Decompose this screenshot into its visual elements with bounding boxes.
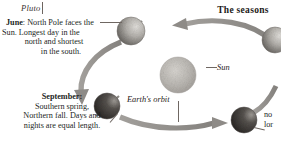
- june-caption-line-4: in the south.: [2, 47, 124, 57]
- june-caption-line-1: June: North Pole faces the: [2, 18, 124, 28]
- september-caption-line-2: Southern spring,: [0, 102, 124, 112]
- september-caption-line-1: September:: [0, 92, 124, 102]
- june-caption-line-3: north and shortest: [2, 37, 124, 47]
- june-marker: June: [6, 18, 23, 27]
- june-caption: June: North Pole faces the Sun. Longest …: [2, 18, 124, 56]
- june-caption-line-2: Sun. Longest day in the: [2, 28, 124, 38]
- orbit-arrow-right: [253, 86, 276, 113]
- june-caption-line-1-text: North Pole faces the: [25, 18, 94, 27]
- sun-leader-line: [206, 67, 217, 68]
- september-caption-line-4: nights are equal length.: [0, 121, 124, 131]
- orbit-arrow-bottom: [120, 117, 228, 129]
- sun-label: Sun: [217, 63, 230, 72]
- seasons-diagram-page: Pluto The seasons: [0, 0, 281, 147]
- orbit-leader-line: [178, 101, 179, 122]
- september-caption-line-3: Northern fall. Days and: [0, 111, 124, 121]
- sun-body: [160, 57, 196, 93]
- right-edge-clipped-line-2: lor: [264, 120, 273, 130]
- right-edge-clipped-line-1: no: [264, 110, 273, 120]
- earth-march: [262, 27, 281, 53]
- right-edge-clipped-caption: no lor: [264, 110, 273, 129]
- earths-orbit-label: Earth's orbit: [127, 95, 170, 104]
- september-caption: September: Southern spring, Northern fal…: [0, 92, 124, 130]
- orbit-arrow-top: [172, 18, 272, 41]
